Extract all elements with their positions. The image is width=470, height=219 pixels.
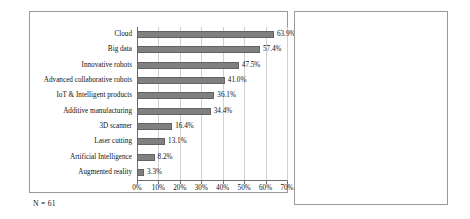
left-chart-category-label: Additive manufacturing (63, 108, 132, 115)
left-chart-bar-row: IoT & Intelligent products36.1% (137, 92, 287, 99)
left-chart-bar-row: Cloud63.9% (137, 31, 287, 38)
left-chart-category-label: Augmented reality (78, 169, 132, 176)
left-chart-x-tick-label: 50% (238, 184, 251, 192)
left-chart-category-label: Innovative robots (81, 62, 132, 69)
left-chart-bar-row: Augmented reality3.3% (137, 169, 287, 176)
left-chart-bar (137, 46, 260, 53)
left-chart-value-label: 47.5% (242, 62, 261, 69)
left-chart-x-tick-label: 60% (259, 184, 272, 192)
left-chart-bar-row: Additive manufacturing34.4% (137, 108, 287, 115)
left-chart-bar-row: Innovative robots47.5% (137, 62, 287, 69)
sample-size-note: N = 61 (33, 199, 56, 208)
left-chart-value-label: 36.1% (217, 92, 236, 99)
left-chart-gridline (287, 27, 288, 180)
left-chart-panel: 0%10%20%30%40%50%60%70%Cloud63.9%Big dat… (29, 11, 288, 193)
left-chart-x-tick-label: 20% (173, 184, 186, 192)
left-chart-value-label: 8.2% (158, 154, 173, 161)
left-chart-bar (137, 62, 239, 69)
left-chart-x-tick-label: 40% (216, 184, 229, 192)
left-chart-bar-row: 3D scanner16.4% (137, 123, 287, 130)
left-chart-x-tick-label: 0% (132, 184, 142, 192)
left-chart-bar-row: Big data57.4% (137, 46, 287, 53)
left-chart-value-label: 41.0% (228, 77, 247, 84)
left-chart-x-tick-label: 10% (152, 184, 165, 192)
left-chart-value-label: 16.4% (175, 123, 194, 130)
left-chart-bar-row: Artificial Intelligence8.2% (137, 154, 287, 161)
left-chart-value-label: 3.3% (147, 169, 162, 176)
left-chart-category-label: Laser cutting (94, 138, 132, 145)
left-chart-x-tick-label: 70% (280, 184, 293, 192)
left-chart-value-label: 63.9% (277, 31, 296, 38)
left-chart-bar (137, 77, 225, 84)
left-chart-bar (137, 108, 211, 115)
left-chart-bar-row: Laser cutting13.1% (137, 138, 287, 145)
left-chart-bar (137, 138, 165, 145)
left-chart-value-label: 57.4% (263, 46, 282, 53)
figure-two-bar-charts: 0%10%20%30%40%50%60%70%Cloud63.9%Big dat… (0, 0, 470, 219)
left-chart-x-axis-line (137, 180, 287, 181)
left-chart-value-label: 13.1% (168, 138, 187, 145)
left-chart-bar (137, 169, 144, 176)
left-chart-bar-row: Advanced collaborative robots41.0% (137, 77, 287, 84)
left-chart-bar (137, 92, 214, 99)
left-chart-x-tick-label: 30% (195, 184, 208, 192)
left-chart-category-label: Artificial Intelligence (70, 154, 132, 161)
left-chart-category-label: Big data (108, 46, 132, 53)
left-chart-category-label: Advanced collaborative robots (44, 77, 132, 84)
left-chart-category-label: 3D scanner (99, 123, 132, 130)
left-chart-plot-area: 0%10%20%30%40%50%60%70%Cloud63.9%Big dat… (137, 27, 287, 180)
left-chart-bar (137, 123, 172, 130)
left-chart-category-label: IoT & Intelligent products (56, 92, 132, 99)
left-chart-category-label: Cloud (114, 31, 132, 38)
left-chart-value-label: 34.4% (214, 108, 233, 115)
left-chart-bar (137, 31, 274, 38)
right-chart-panel: 0%10%20%30%40%50%60%70%80%29.5%One-twote… (294, 11, 448, 205)
left-chart-bar (137, 154, 155, 161)
